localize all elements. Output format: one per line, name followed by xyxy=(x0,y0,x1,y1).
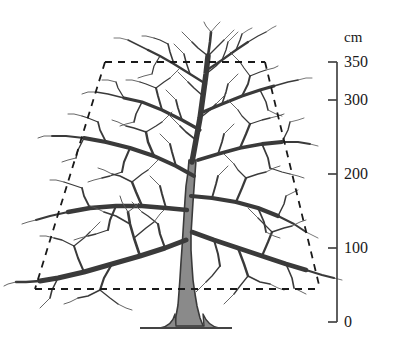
branch-secondary xyxy=(160,186,166,208)
twig xyxy=(310,144,318,146)
twig xyxy=(150,176,160,186)
twig xyxy=(138,74,152,78)
branch-upper-right-ext xyxy=(282,142,310,144)
twig xyxy=(204,22,211,32)
branch-secondary xyxy=(140,82,156,88)
branch-secondary xyxy=(78,290,100,298)
twig xyxy=(22,220,36,224)
branch-secondary xyxy=(240,124,250,148)
twig xyxy=(166,90,176,100)
branch-secondary xyxy=(74,246,84,272)
branch-low-left-ext xyxy=(16,281,40,282)
branch-crown-left-ext xyxy=(128,40,148,50)
twig xyxy=(242,28,252,34)
branch-crown-left xyxy=(148,50,206,84)
branch-secondary xyxy=(240,62,250,76)
branch-secondary xyxy=(262,232,272,256)
twig xyxy=(224,294,234,304)
branch-low-right xyxy=(192,232,306,270)
branch-secondary xyxy=(236,178,246,202)
branch-secondary xyxy=(146,122,162,132)
branch-high-right-ext xyxy=(274,80,298,86)
branch-mid-right xyxy=(191,196,278,216)
twig xyxy=(118,304,132,310)
branch-secondary xyxy=(192,42,208,56)
branch-secondary xyxy=(126,126,146,132)
twig xyxy=(4,282,16,286)
twig xyxy=(38,136,52,138)
twig xyxy=(298,78,312,80)
branch-secondary xyxy=(234,276,248,294)
twig xyxy=(218,166,228,176)
branch-secondary xyxy=(250,70,266,76)
twig xyxy=(50,180,64,182)
branch-secondary xyxy=(134,222,154,238)
twig xyxy=(266,66,278,70)
twig xyxy=(306,232,318,238)
branch-secondary xyxy=(238,110,250,124)
branch-secondary xyxy=(100,290,118,304)
axis-tick-label-200: 200 xyxy=(344,166,368,182)
twig xyxy=(266,232,280,238)
twig xyxy=(148,160,158,170)
branch-secondary xyxy=(212,176,218,198)
twig xyxy=(224,154,234,164)
twig xyxy=(228,100,238,110)
twig xyxy=(98,168,112,174)
twig xyxy=(290,118,304,122)
branch-secondary xyxy=(156,78,170,88)
branch-leader xyxy=(192,56,208,162)
branch-mid-right-ext xyxy=(278,216,306,232)
twig xyxy=(266,26,276,32)
measurement-axis xyxy=(328,62,337,322)
twig xyxy=(182,32,192,42)
twig xyxy=(40,298,50,308)
twig xyxy=(82,92,96,94)
canopy-right-line xyxy=(265,62,320,289)
branch-secondary xyxy=(132,182,142,206)
branch-secondary xyxy=(108,206,116,230)
twig xyxy=(126,80,140,82)
branch-leader-tip xyxy=(208,32,211,56)
twig xyxy=(228,32,238,42)
branch-secondary xyxy=(152,56,160,74)
branch-secondary xyxy=(262,144,270,168)
branch-secondary xyxy=(142,212,158,224)
branch-secondary xyxy=(158,224,165,248)
twig xyxy=(228,74,238,84)
twig xyxy=(174,44,184,54)
twig xyxy=(68,114,82,116)
branch-secondary xyxy=(112,174,132,182)
branch-secondary xyxy=(234,164,246,178)
axis-tick-label-350: 350 xyxy=(344,54,368,70)
branch-secondary xyxy=(154,38,168,44)
twig xyxy=(160,134,170,144)
axis-tick-label-300: 300 xyxy=(344,92,368,108)
branch-secondary xyxy=(248,276,270,284)
branch-secondary xyxy=(246,172,266,178)
twig xyxy=(90,222,100,232)
twig xyxy=(211,22,220,32)
twig xyxy=(178,72,188,82)
branch-secondary xyxy=(82,188,90,208)
axis-unit-label: cm xyxy=(344,30,362,45)
branch-secondary xyxy=(278,196,286,216)
canopy-left-line xyxy=(35,62,105,289)
branch-secondary xyxy=(188,82,203,96)
branch-secondary xyxy=(260,90,268,110)
branch-upper-right xyxy=(198,142,282,160)
branch-secondary xyxy=(122,148,130,172)
branch-secondary xyxy=(206,266,220,282)
twig xyxy=(74,236,88,240)
axis-tick-label-0: 0 xyxy=(344,314,352,330)
twig xyxy=(114,38,128,40)
branch-high-left-ext xyxy=(96,92,124,98)
twig xyxy=(224,30,234,40)
branch-secondary xyxy=(250,118,270,124)
branch-mid-left-ext xyxy=(36,212,68,220)
branch-secondary xyxy=(272,226,292,232)
twig xyxy=(64,298,78,304)
twig xyxy=(334,278,342,280)
branch-secondary xyxy=(134,102,142,122)
branch-secondary xyxy=(132,170,148,182)
